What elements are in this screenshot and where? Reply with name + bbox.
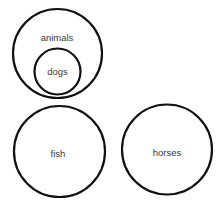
- euler-diagram: animals dogs fish horses: [0, 0, 220, 207]
- set-horses: horses: [122, 105, 212, 195]
- animals-circle: [13, 9, 102, 98]
- animals-label: animals: [41, 32, 74, 43]
- fish-label: fish: [51, 148, 66, 159]
- set-dogs: dogs: [35, 49, 81, 95]
- set-fish: fish: [14, 106, 105, 197]
- horses-label: horses: [153, 147, 182, 158]
- dogs-label: dogs: [47, 66, 68, 77]
- set-animals: animals: [13, 9, 102, 98]
